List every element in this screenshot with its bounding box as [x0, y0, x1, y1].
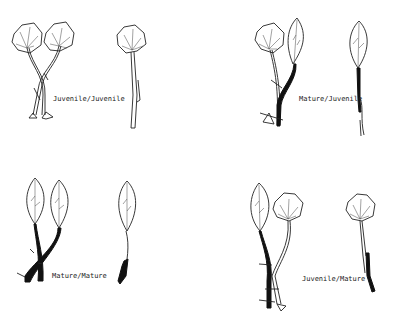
- graft-label: Juvenile/Juvenile: [53, 96, 125, 103]
- graft-label: Mature/Mature: [52, 273, 107, 280]
- graft-label: Mature/Juvenile: [299, 96, 362, 103]
- panel-juvenile-mature: Juvenile/Mature: [197, 161, 394, 322]
- graft-drawing-mature-mature: [0, 161, 197, 322]
- panel-mature-mature: Mature/Mature: [0, 161, 197, 322]
- graft-drawing-juvenile-mature: [197, 161, 394, 322]
- graft-drawing-juvenile-juvenile: [0, 0, 197, 161]
- graft-label: Juvenile/Mature: [302, 276, 365, 283]
- panel-juvenile-juvenile: Juvenile/Juvenile: [0, 0, 197, 161]
- panel-mature-juvenile: Mature/Juvenile: [197, 0, 394, 161]
- graft-drawing-mature-juvenile: [197, 0, 394, 161]
